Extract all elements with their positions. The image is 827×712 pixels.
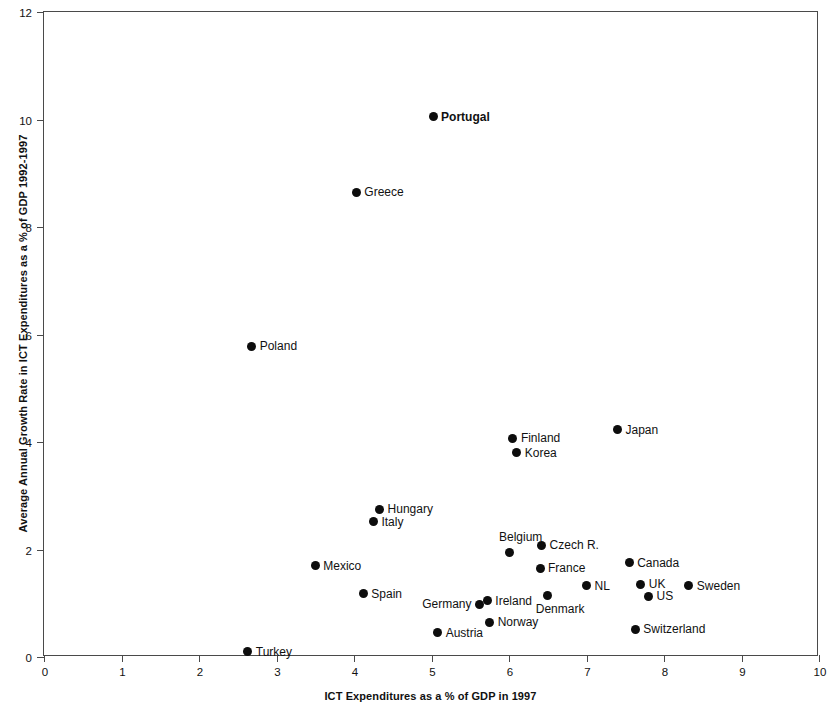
data-point-label: Canada <box>637 557 679 569</box>
y-tick-label: 4 <box>26 437 32 449</box>
data-point-marker <box>536 564 545 573</box>
data-point-label: Norway <box>498 616 539 628</box>
data-point-marker <box>636 580 645 589</box>
data-point-label: US <box>657 590 674 602</box>
y-tick: 4 <box>37 442 44 443</box>
data-point-marker <box>433 628 442 637</box>
y-tick: 10 <box>37 120 44 121</box>
x-tick-label: 10 <box>814 666 827 678</box>
x-tick-label: 8 <box>662 666 668 678</box>
data-point-label: Poland <box>260 340 297 352</box>
data-point-marker <box>475 600 484 609</box>
data-point-marker <box>429 112 438 121</box>
x-tick: 5 <box>432 655 433 662</box>
data-point-marker <box>369 517 378 526</box>
x-tick: 7 <box>587 655 588 662</box>
data-point-label: Mexico <box>323 560 361 572</box>
y-tick-label: 12 <box>19 7 32 19</box>
y-tick: 6 <box>37 335 44 336</box>
data-point-marker <box>375 505 384 514</box>
x-tick: 9 <box>742 655 743 662</box>
x-tick-label: 7 <box>584 666 590 678</box>
data-point-marker <box>512 448 521 457</box>
y-tick: 12 <box>37 12 44 13</box>
data-point-marker <box>505 548 514 557</box>
data-point-label: Turkey <box>256 646 292 658</box>
data-point-label: NL <box>595 580 610 592</box>
data-point-label: Austria <box>446 627 483 639</box>
data-point-label: France <box>548 562 585 574</box>
data-point-marker <box>359 589 368 598</box>
data-point-marker <box>625 558 634 567</box>
x-tick-label: 6 <box>507 666 513 678</box>
x-axis-title: ICT Expenditures as a % of GDP in 1997 <box>43 690 818 702</box>
x-tick: 1 <box>122 655 123 662</box>
data-point-label: Portugal <box>441 111 490 123</box>
x-tick-label: 2 <box>197 666 203 678</box>
y-tick-label: 0 <box>26 652 32 664</box>
x-tick: 8 <box>664 655 665 662</box>
data-point-label: Hungary <box>388 503 433 515</box>
y-tick: 2 <box>37 550 44 551</box>
data-point-label: Japan <box>626 424 659 436</box>
x-tick-label: 4 <box>352 666 358 678</box>
plot-area: 024681012 012345678910 PortugalGreecePol… <box>43 11 818 656</box>
y-tick: 8 <box>37 227 44 228</box>
x-tick: 2 <box>199 655 200 662</box>
data-point-label: Greece <box>364 186 403 198</box>
x-tick-label: 9 <box>739 666 745 678</box>
x-tick-label: 0 <box>42 666 48 678</box>
data-point-label: Switzerland <box>643 623 705 635</box>
y-tick: 0 <box>37 657 44 658</box>
x-tick: 10 <box>819 655 820 662</box>
x-tick-label: 1 <box>119 666 125 678</box>
data-point-marker <box>543 591 552 600</box>
y-tick-label: 6 <box>26 330 32 342</box>
data-point-marker <box>684 581 693 590</box>
data-point-label: Finland <box>521 432 560 444</box>
y-tick-label: 10 <box>19 115 32 127</box>
data-point-marker <box>485 618 494 627</box>
data-point-marker <box>644 592 653 601</box>
data-point-marker <box>582 581 591 590</box>
data-point-marker <box>311 561 320 570</box>
scatter-chart-figure: Average Annual Growth Rate in ICT Expend… <box>0 0 827 712</box>
data-point-label: Belgium <box>499 531 542 543</box>
data-point-label: Italy <box>381 516 403 528</box>
data-point-marker <box>247 342 256 351</box>
data-point-marker <box>508 434 517 443</box>
x-tick: 0 <box>44 655 45 662</box>
data-point-marker <box>243 647 252 656</box>
data-point-label: Germany <box>422 598 471 610</box>
data-point-label: Spain <box>371 588 402 600</box>
data-point-label: Korea <box>525 447 557 459</box>
x-tick-label: 5 <box>429 666 435 678</box>
x-tick: 4 <box>354 655 355 662</box>
y-tick-label: 8 <box>26 222 32 234</box>
data-point-label: Czech R. <box>550 539 599 551</box>
data-point-label: Sweden <box>697 580 740 592</box>
x-tick-label: 3 <box>274 666 280 678</box>
data-point-marker <box>631 625 640 634</box>
x-tick: 6 <box>509 655 510 662</box>
data-point-marker <box>613 425 622 434</box>
data-point-marker <box>483 596 492 605</box>
data-point-label: Ireland <box>495 595 532 607</box>
y-tick-label: 2 <box>26 545 32 557</box>
data-point-marker <box>352 188 361 197</box>
data-point-label: Denmark <box>536 603 585 615</box>
